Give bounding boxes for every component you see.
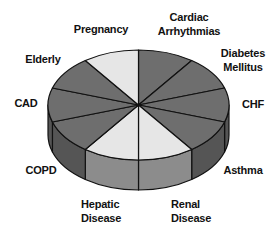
label-diabetes-mellitus: DiabetesMellitus: [221, 47, 265, 73]
label-chf: CHF: [242, 98, 264, 110]
pie-top-slices: [48, 50, 229, 160]
label-asthma: Asthma: [223, 164, 263, 176]
label-cardiac-arrhythmias: CardiacArrhythmias: [158, 11, 221, 37]
label-elderly: Elderly: [25, 53, 61, 65]
label-renal-disease: RenalDisease: [171, 198, 211, 224]
pie-chart: CardiacArrhythmiasDiabetesMellitusCHFAst…: [0, 0, 280, 243]
label-copd: COPD: [26, 164, 57, 176]
label-pregnancy: Pregnancy: [74, 23, 130, 35]
label-hepatic-disease: HepaticDisease: [81, 198, 121, 224]
label-cad: CAD: [14, 97, 37, 109]
